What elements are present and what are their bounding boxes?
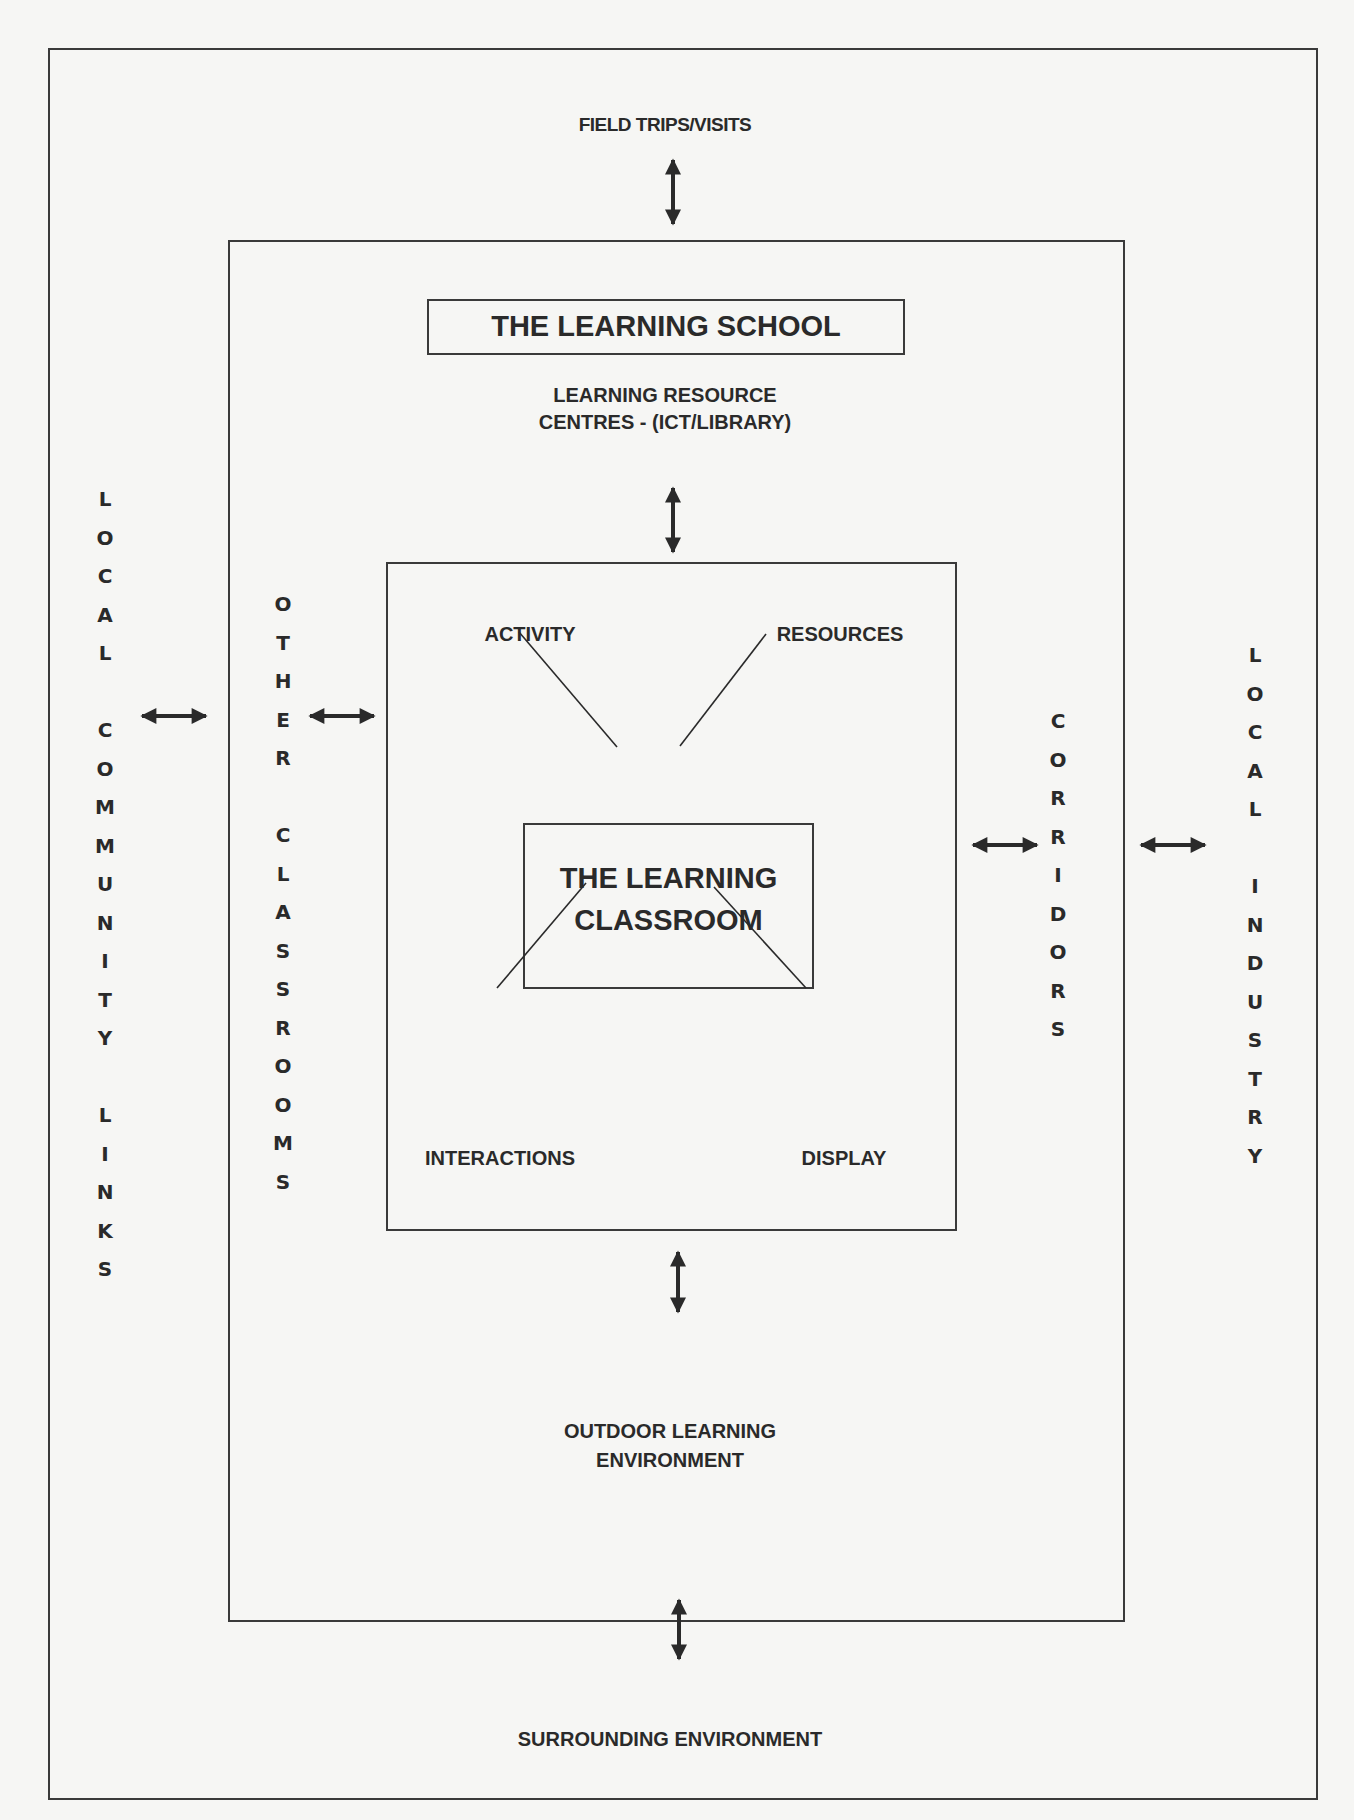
- connectors: [0, 0, 1354, 1820]
- spoke-lines: [497, 632, 806, 988]
